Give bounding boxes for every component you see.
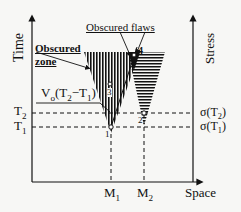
sigma-t1-label: σ(T1) xyxy=(200,120,226,136)
obscured-zone-label-1: Obscured xyxy=(35,43,81,54)
point-3-label: 3 xyxy=(107,88,112,97)
obscured-flaws-label: Obscured flaws xyxy=(86,22,155,33)
space-axis-label: Space xyxy=(185,186,216,199)
point-3-marker xyxy=(108,82,112,86)
obscured-flaws-text: Obscured flaws xyxy=(86,21,155,33)
time-axis-label: Time xyxy=(12,33,26,62)
point-4-label: 4 xyxy=(138,46,143,56)
t1-label: T1 xyxy=(14,119,27,136)
obscuration-diagram: Time Stress Space Obscured zone Obscured… xyxy=(0,0,241,212)
obscured-zone-label-2: zone xyxy=(35,56,56,67)
point-1-label: 1 xyxy=(105,130,110,139)
point-2-label: 2 xyxy=(138,116,143,125)
velocity-label: Vo(T2−T1) xyxy=(41,86,96,103)
stress-axis-label: Stress xyxy=(203,33,216,64)
point-4-marker xyxy=(132,53,136,57)
m2-label: M2 xyxy=(137,186,153,203)
obscured-flaws-pointer-a xyxy=(120,32,130,55)
m1-label: M1 xyxy=(104,186,120,203)
